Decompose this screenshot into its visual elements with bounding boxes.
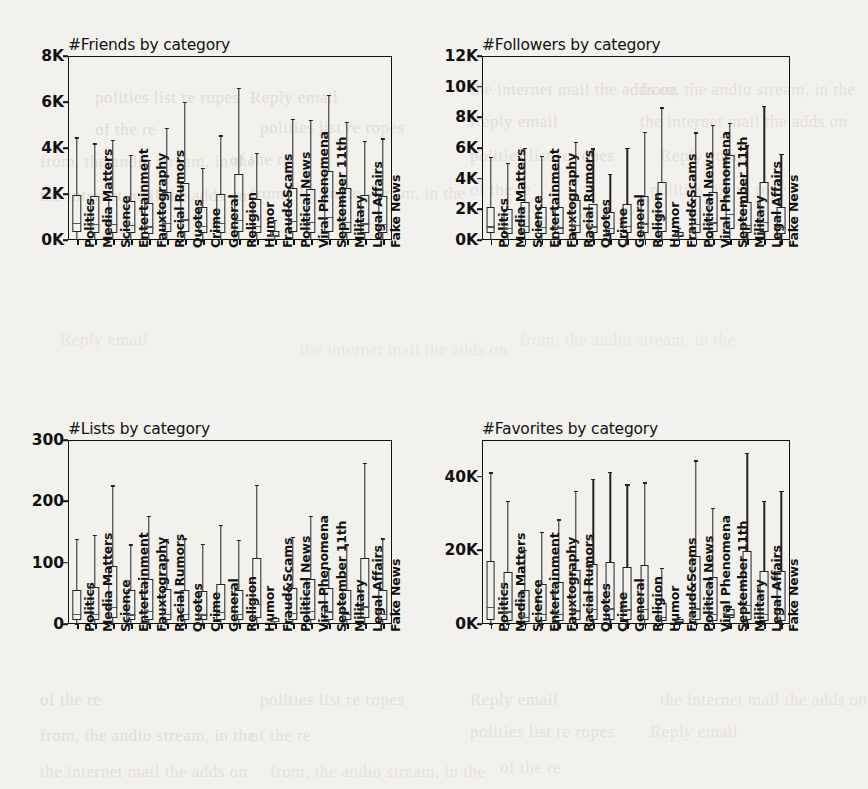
cap-upper	[643, 482, 647, 483]
median-line	[589, 609, 598, 610]
whisker-upper	[764, 501, 765, 572]
median-line	[623, 609, 632, 610]
median-line	[777, 614, 786, 615]
cap-upper	[557, 519, 561, 520]
median-line	[743, 605, 752, 606]
xtick-label-favorites-17: Fake News	[786, 559, 801, 632]
cap-upper	[779, 491, 783, 492]
iqr-box	[589, 564, 598, 620]
whisker-upper	[644, 482, 645, 565]
iqr-box	[572, 570, 581, 621]
whisker-upper	[541, 532, 542, 584]
ytick-label-favorites-2: 40K	[0, 468, 478, 486]
xtick-mark	[491, 624, 493, 629]
xtick-mark	[508, 624, 510, 629]
iqr-box	[691, 556, 700, 620]
whisker-upper	[558, 519, 559, 582]
cap-upper	[625, 484, 629, 485]
xtick-mark	[747, 624, 749, 629]
iqr-box	[503, 572, 512, 620]
median-line	[486, 607, 495, 608]
whisker-upper	[507, 501, 508, 573]
xtick-mark	[645, 624, 647, 629]
median-line	[606, 608, 615, 609]
cap-upper	[523, 550, 527, 551]
whisker-upper	[781, 491, 782, 571]
whisker-upper	[593, 479, 594, 565]
cap-upper	[745, 453, 749, 454]
iqr-box	[657, 603, 666, 621]
xtick-mark	[781, 624, 783, 629]
median-line	[503, 611, 512, 612]
xtick-mark	[542, 624, 544, 629]
iqr-box	[743, 551, 752, 619]
xtick-mark	[627, 624, 629, 629]
whisker-upper	[695, 460, 696, 556]
whisker-upper	[627, 484, 628, 567]
median-line	[674, 621, 683, 622]
iqr-box	[606, 562, 615, 620]
iqr-box	[640, 565, 649, 620]
cap-upper	[574, 491, 578, 492]
xtick-mark	[713, 624, 715, 629]
ytick-label-favorites-1: 20K	[0, 541, 478, 559]
cap-upper	[540, 532, 544, 533]
cap-upper	[506, 501, 510, 502]
xtick-mark	[593, 624, 595, 629]
xtick-mark	[576, 624, 578, 629]
whisker-upper	[524, 550, 525, 590]
cap-upper	[660, 568, 664, 569]
median-line	[726, 614, 735, 615]
ytick-label-favorites-0: 0K	[0, 615, 478, 633]
xtick-mark	[610, 624, 612, 629]
median-line	[640, 609, 649, 610]
xtick-mark	[696, 624, 698, 629]
whisker-upper	[575, 491, 576, 570]
cap-upper	[591, 479, 595, 480]
cap-upper	[694, 460, 698, 461]
median-line	[555, 614, 564, 615]
whisker-upper	[610, 472, 611, 562]
median-line	[691, 608, 700, 609]
whisker-upper	[712, 508, 713, 577]
xtick-mark	[679, 624, 681, 629]
whisker-upper	[490, 472, 491, 560]
xtick-mark	[730, 624, 732, 629]
xtick-mark	[525, 624, 527, 629]
whisker-upper	[747, 453, 748, 551]
median-line	[760, 614, 769, 615]
xtick-mark	[764, 624, 766, 629]
cap-upper	[762, 501, 766, 502]
median-line	[520, 617, 529, 618]
iqr-box	[486, 561, 495, 620]
xtick-mark	[559, 624, 561, 629]
whisker-upper	[661, 568, 662, 603]
cap-upper	[489, 472, 493, 473]
cap-upper	[711, 508, 715, 509]
median-line	[657, 617, 666, 618]
median-line	[709, 614, 718, 615]
cap-upper	[728, 606, 732, 607]
chart-title-favorites: #Favorites by category	[482, 420, 658, 438]
iqr-box	[623, 567, 632, 620]
xtick-mark	[662, 624, 664, 629]
cap-upper	[608, 472, 612, 473]
median-line	[537, 614, 546, 615]
median-line	[572, 610, 581, 611]
